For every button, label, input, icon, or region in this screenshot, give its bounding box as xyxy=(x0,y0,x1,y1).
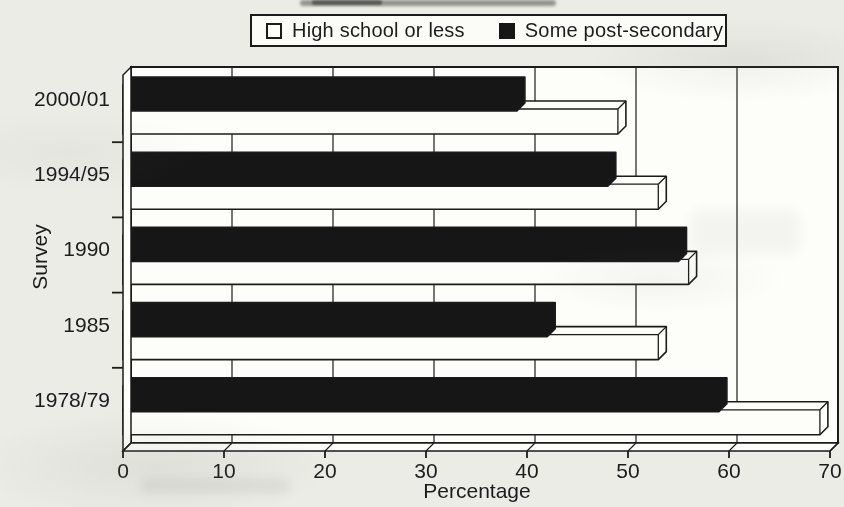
y-category-label: 1985 xyxy=(63,313,110,336)
legend-item-high-school: High school or less xyxy=(266,19,465,42)
bar-some-post-secondary xyxy=(123,378,727,412)
bar-some-post-secondary xyxy=(123,152,616,186)
x-tick-label: 0 xyxy=(117,459,129,482)
x-tick-label: 20 xyxy=(313,459,336,482)
bar-some-post-secondary xyxy=(123,303,555,337)
legend-swatch-post-secondary-icon xyxy=(499,23,515,39)
legend-item-post-secondary: Some post-secondary xyxy=(499,19,723,42)
bar-some-post-secondary xyxy=(123,77,525,111)
axis-left-wall xyxy=(123,67,131,451)
legend-label-high-school: High school or less xyxy=(292,19,465,42)
bar-chart: 2000/011994/95199019851978/7901020304050… xyxy=(0,0,844,507)
legend-swatch-high-school-icon xyxy=(266,23,282,39)
x-axis-title: Percentage xyxy=(423,479,530,502)
legend: High school or less Some post-secondary xyxy=(250,14,727,47)
y-category-label: 2000/01 xyxy=(34,87,110,110)
legend-label-post-secondary: Some post-secondary xyxy=(525,19,723,42)
bar-some-post-secondary xyxy=(123,227,687,261)
y-category-label: 1978/79 xyxy=(34,388,110,411)
scanned-chart-page: High school or less Some post-secondary … xyxy=(0,0,844,507)
x-tick-label: 50 xyxy=(616,459,639,482)
x-tick-label: 60 xyxy=(717,459,740,482)
x-tick-label: 10 xyxy=(212,459,235,482)
y-axis-title: Survey xyxy=(28,224,51,290)
y-category-label: 1990 xyxy=(63,237,110,260)
x-tick-label: 70 xyxy=(818,459,841,482)
y-category-label: 1994/95 xyxy=(34,162,110,185)
